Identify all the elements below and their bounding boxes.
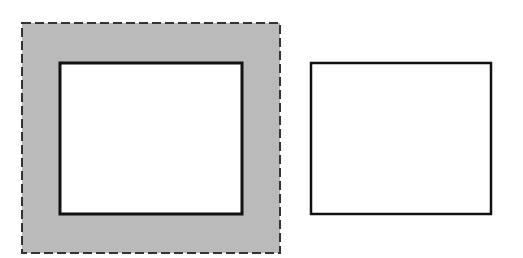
box-right [311, 63, 491, 214]
inner-box-left [60, 63, 242, 214]
diagram-canvas [0, 0, 523, 258]
